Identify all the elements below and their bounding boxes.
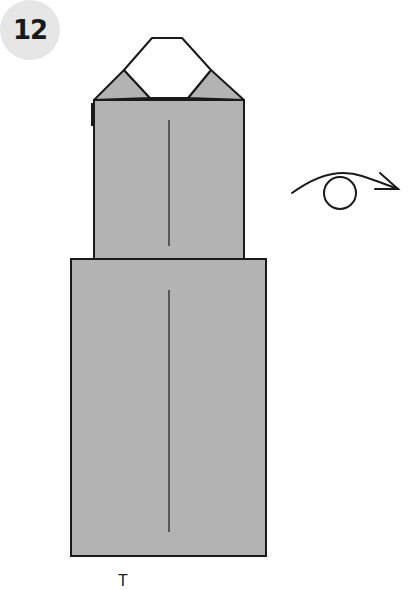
turn-over-arrow-icon bbox=[292, 173, 398, 209]
step-caption: T bbox=[118, 572, 128, 590]
